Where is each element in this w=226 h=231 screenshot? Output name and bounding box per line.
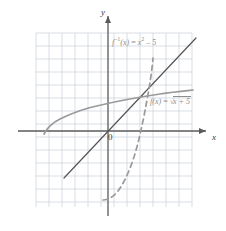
- inverse-eq-tail: – 5: [146, 38, 156, 47]
- inverse-eq-power: 2: [141, 36, 144, 42]
- inverse-eq-argument: (x): [120, 38, 129, 47]
- plot-canvas: [0, 0, 226, 231]
- y-axis-label: y: [101, 8, 105, 17]
- math-graph-figure: y x 0 f–1(x) = x2 – 5 f(x) = √x + 5: [0, 0, 226, 231]
- func-eq-argument: (x): [152, 97, 161, 106]
- function-equation-label: f(x) = √x + 5: [150, 98, 191, 106]
- inverse-eq-equals: =: [131, 38, 136, 47]
- inverse-function-equation-label: f–1(x) = x2 – 5: [112, 39, 156, 47]
- origin-label: 0: [108, 133, 113, 142]
- x-axis-label: x: [212, 133, 216, 142]
- func-eq-equals: =: [163, 97, 168, 106]
- func-eq-radicand: x + 5: [173, 96, 191, 106]
